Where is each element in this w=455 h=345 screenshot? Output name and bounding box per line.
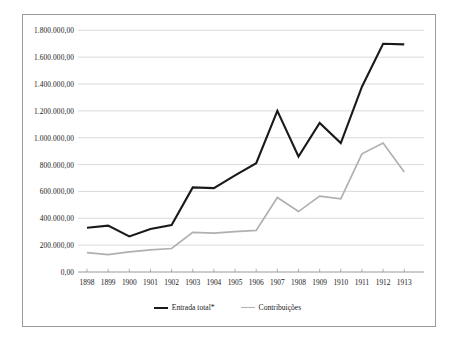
x-axis-tick-label: 1903 bbox=[185, 278, 200, 287]
x-axis-tick-label: 1898 bbox=[80, 278, 95, 287]
y-axis-tick-label: 1.800.000,00 bbox=[26, 26, 74, 35]
legend-label: Contribuições bbox=[259, 303, 302, 312]
x-axis-tick-label: 1908 bbox=[291, 278, 306, 287]
legend-swatch-line-icon bbox=[154, 307, 168, 309]
x-axis-tick-label: 1905 bbox=[228, 278, 243, 287]
chart-legend: Entrada total*Contribuições bbox=[0, 303, 455, 312]
x-axis-tick-label: 1899 bbox=[101, 278, 116, 287]
x-axis-tick-label: 1904 bbox=[207, 278, 222, 287]
y-axis-tick-label: 0,00 bbox=[26, 268, 74, 277]
x-axis-tick-label: 1900 bbox=[122, 278, 137, 287]
x-axis-tick-label: 1912 bbox=[376, 278, 391, 287]
y-axis-tick-label: 200.000,00 bbox=[26, 241, 74, 250]
y-axis-tick-label: 800.000,00 bbox=[26, 160, 74, 169]
y-axis-tick-label: 1.000.000,00 bbox=[26, 133, 74, 142]
x-axis-tick-label: 1911 bbox=[355, 278, 370, 287]
x-axis-tick-label: 1901 bbox=[143, 278, 158, 287]
legend-label: Entrada total* bbox=[172, 303, 215, 312]
x-axis-tick-label: 1902 bbox=[164, 278, 179, 287]
x-axis-tick-label: 1909 bbox=[312, 278, 327, 287]
y-axis-tick-label: 400.000,00 bbox=[26, 214, 74, 223]
x-axis-tick-label: 1910 bbox=[333, 278, 348, 287]
y-axis-tick-label: 1.400.000,00 bbox=[26, 80, 74, 89]
legend-swatch-line-icon bbox=[241, 307, 255, 308]
x-axis-tick-label: 1906 bbox=[249, 278, 264, 287]
y-axis-tick-label: 1.600.000,00 bbox=[26, 53, 74, 62]
legend-entry-1: Entrada total* bbox=[154, 303, 215, 312]
legend-entry-2: Contribuições bbox=[241, 303, 302, 312]
x-axis-tick-label: 1913 bbox=[397, 278, 412, 287]
y-axis-tick-label: 600.000,00 bbox=[26, 187, 74, 196]
x-axis-tick-label: 1907 bbox=[270, 278, 285, 287]
y-axis-tick-label: 1.200.000,00 bbox=[26, 106, 74, 115]
